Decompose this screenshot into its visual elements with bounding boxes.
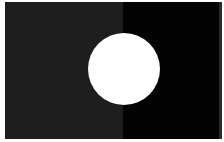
white-circle [88, 33, 160, 105]
image-frame [5, 2, 222, 139]
right-edge-strip [219, 2, 222, 139]
